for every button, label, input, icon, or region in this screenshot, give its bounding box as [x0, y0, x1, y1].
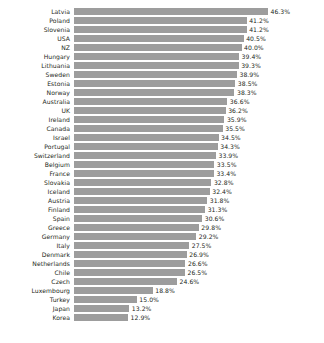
- bar-value-label: 35.9%: [224, 115, 246, 124]
- bar-value-label: 12.9%: [128, 313, 150, 322]
- bar-row: Iceland32.4%: [0, 187, 324, 196]
- bar: [74, 197, 207, 204]
- bar: [74, 251, 187, 258]
- category-label: Iceland: [0, 187, 74, 196]
- bar-chart: Latvia46.3%Poland41.2%Slovenia41.2%USA40…: [0, 0, 324, 343]
- bar: [74, 242, 189, 249]
- bar: [74, 143, 218, 150]
- bar: [74, 116, 224, 123]
- bar-track: 13.2%: [74, 304, 324, 313]
- bar: [74, 8, 268, 15]
- bar-value-label: 39.3%: [239, 61, 261, 70]
- bar: [74, 35, 244, 42]
- bar-track: 12.9%: [74, 313, 324, 322]
- bar-row: Chile26.5%: [0, 268, 324, 277]
- category-label: Turkey: [0, 295, 74, 304]
- bar-row: Finland31.3%: [0, 205, 324, 214]
- bar: [74, 26, 247, 33]
- bar-row: Denmark26.9%: [0, 250, 324, 259]
- bar-value-label: 36.2%: [226, 106, 248, 115]
- bar-value-label: 18.8%: [153, 286, 175, 295]
- category-label: Australia: [0, 97, 74, 106]
- bar: [74, 188, 210, 195]
- category-label: Austria: [0, 196, 74, 205]
- bar-row: Spain30.6%: [0, 214, 324, 223]
- bar-track: 29.2%: [74, 232, 324, 241]
- bar-track: 41.2%: [74, 25, 324, 34]
- bar-value-label: 33.9%: [216, 151, 238, 160]
- bar-value-label: 29.2%: [196, 232, 218, 241]
- bar-track: 24.6%: [74, 277, 324, 286]
- category-label: USA: [0, 34, 74, 43]
- bar-value-label: 40.5%: [244, 34, 266, 43]
- bar: [74, 269, 185, 276]
- bar-track: 36.6%: [74, 97, 324, 106]
- category-label: UK: [0, 106, 74, 115]
- bar-track: 38.5%: [74, 79, 324, 88]
- bar: [74, 215, 202, 222]
- bar-track: 35.5%: [74, 124, 324, 133]
- bar-row: Switzerland33.9%: [0, 151, 324, 160]
- bar-track: 33.5%: [74, 160, 324, 169]
- bar-track: 38.3%: [74, 88, 324, 97]
- bar-track: 39.4%: [74, 52, 324, 61]
- bar-value-label: 38.9%: [237, 70, 259, 79]
- bar-row: Austria31.8%: [0, 196, 324, 205]
- bar-row: Luxembourg18.8%: [0, 286, 324, 295]
- category-label: Slovakia: [0, 178, 74, 187]
- bar-track: 31.3%: [74, 205, 324, 214]
- bar: [74, 161, 214, 168]
- bar-row: Germany29.2%: [0, 232, 324, 241]
- bar: [74, 62, 239, 69]
- category-label: Greece: [0, 223, 74, 232]
- bar-row: Canada35.5%: [0, 124, 324, 133]
- category-label: Portugal: [0, 142, 74, 151]
- bar-row: Poland41.2%: [0, 16, 324, 25]
- category-label: Poland: [0, 16, 74, 25]
- bar: [74, 53, 239, 60]
- bar: [74, 296, 137, 303]
- bar-value-label: 32.4%: [210, 187, 232, 196]
- bar: [74, 134, 219, 141]
- category-label: Canada: [0, 124, 74, 133]
- bar-row: UK36.2%: [0, 106, 324, 115]
- bar-value-label: 36.6%: [227, 97, 249, 106]
- category-label: Spain: [0, 214, 74, 223]
- bar-track: 34.5%: [74, 133, 324, 142]
- category-label: Israel: [0, 133, 74, 142]
- chart-plot-area: Latvia46.3%Poland41.2%Slovenia41.2%USA40…: [0, 7, 324, 322]
- category-label: Germany: [0, 232, 74, 241]
- category-label: Lithuania: [0, 61, 74, 70]
- bar-track: 29.8%: [74, 223, 324, 232]
- bar-track: 46.3%: [74, 7, 324, 16]
- bar-track: 40.0%: [74, 43, 324, 52]
- bar-value-label: 24.6%: [177, 277, 199, 286]
- bar-track: 27.5%: [74, 241, 324, 250]
- bar-row: France33.4%: [0, 169, 324, 178]
- category-label: Czech: [0, 277, 74, 286]
- bar-row: Portugal34.3%: [0, 142, 324, 151]
- bar-row: NZ40.0%: [0, 43, 324, 52]
- category-label: Latvia: [0, 7, 74, 16]
- bar-row: Sweden38.9%: [0, 70, 324, 79]
- bar-value-label: 31.3%: [205, 205, 227, 214]
- bar: [74, 260, 185, 267]
- bar-value-label: 38.5%: [235, 79, 257, 88]
- bar-track: 40.5%: [74, 34, 324, 43]
- bar: [74, 71, 237, 78]
- category-label: Norway: [0, 88, 74, 97]
- category-label: Luxembourg: [0, 286, 74, 295]
- bar-track: 32.4%: [74, 187, 324, 196]
- bar-value-label: 32.8%: [211, 178, 233, 187]
- bar: [74, 98, 227, 105]
- bar-track: 38.9%: [74, 70, 324, 79]
- bar: [74, 224, 199, 231]
- bar-value-label: 39.4%: [239, 52, 261, 61]
- bar-row: Japan13.2%: [0, 304, 324, 313]
- category-label: Japan: [0, 304, 74, 313]
- category-label: NZ: [0, 43, 74, 52]
- bar: [74, 233, 196, 240]
- category-label: Switzerland: [0, 151, 74, 160]
- category-label: Estonia: [0, 79, 74, 88]
- bar: [74, 17, 247, 24]
